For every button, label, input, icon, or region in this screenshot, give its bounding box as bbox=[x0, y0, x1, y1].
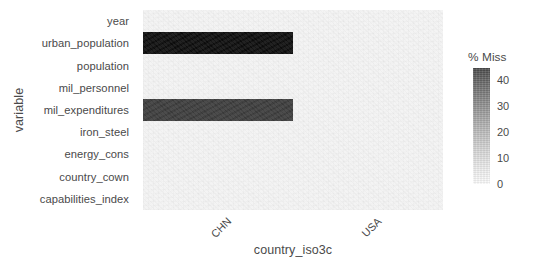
y-tick-label: urban_population bbox=[0, 37, 137, 49]
y-tick-label: mil_personnel bbox=[0, 82, 137, 94]
x-tick-label: CHN bbox=[208, 215, 233, 240]
legend-tick-label: 20 bbox=[497, 127, 509, 138]
x-axis-title: country_iso3c bbox=[143, 243, 443, 257]
heatmap-panel bbox=[143, 10, 443, 210]
y-tick-label: year bbox=[0, 15, 137, 27]
legend-colorbar bbox=[473, 68, 490, 184]
y-tick-label: iron_steel bbox=[0, 126, 137, 138]
legend-tick-label: 10 bbox=[497, 153, 509, 164]
legend-tick-label: 40 bbox=[497, 75, 509, 86]
legend-tick-label: 30 bbox=[497, 101, 509, 112]
x-tick-label: USA bbox=[359, 215, 383, 239]
legend-title: % Miss bbox=[468, 50, 507, 64]
legend: % Miss 403020100 bbox=[466, 50, 537, 195]
heatmap-figure: variable yearurban_populationpopulationm… bbox=[0, 0, 537, 272]
y-tick-label: capabilities_index bbox=[0, 193, 137, 205]
y-tick-label: country_cown bbox=[0, 171, 137, 183]
y-tick-label: mil_expenditures bbox=[0, 104, 137, 116]
heatmap-cell bbox=[143, 99, 293, 121]
legend-colorbar-texture bbox=[473, 68, 490, 184]
y-tick-label: population bbox=[0, 60, 137, 72]
y-axis-tick-labels: yearurban_populationpopulationmil_person… bbox=[0, 0, 137, 272]
heatmap-cell bbox=[143, 32, 293, 54]
y-tick-label: energy_cons bbox=[0, 148, 137, 160]
legend-tick-label: 0 bbox=[497, 179, 503, 190]
